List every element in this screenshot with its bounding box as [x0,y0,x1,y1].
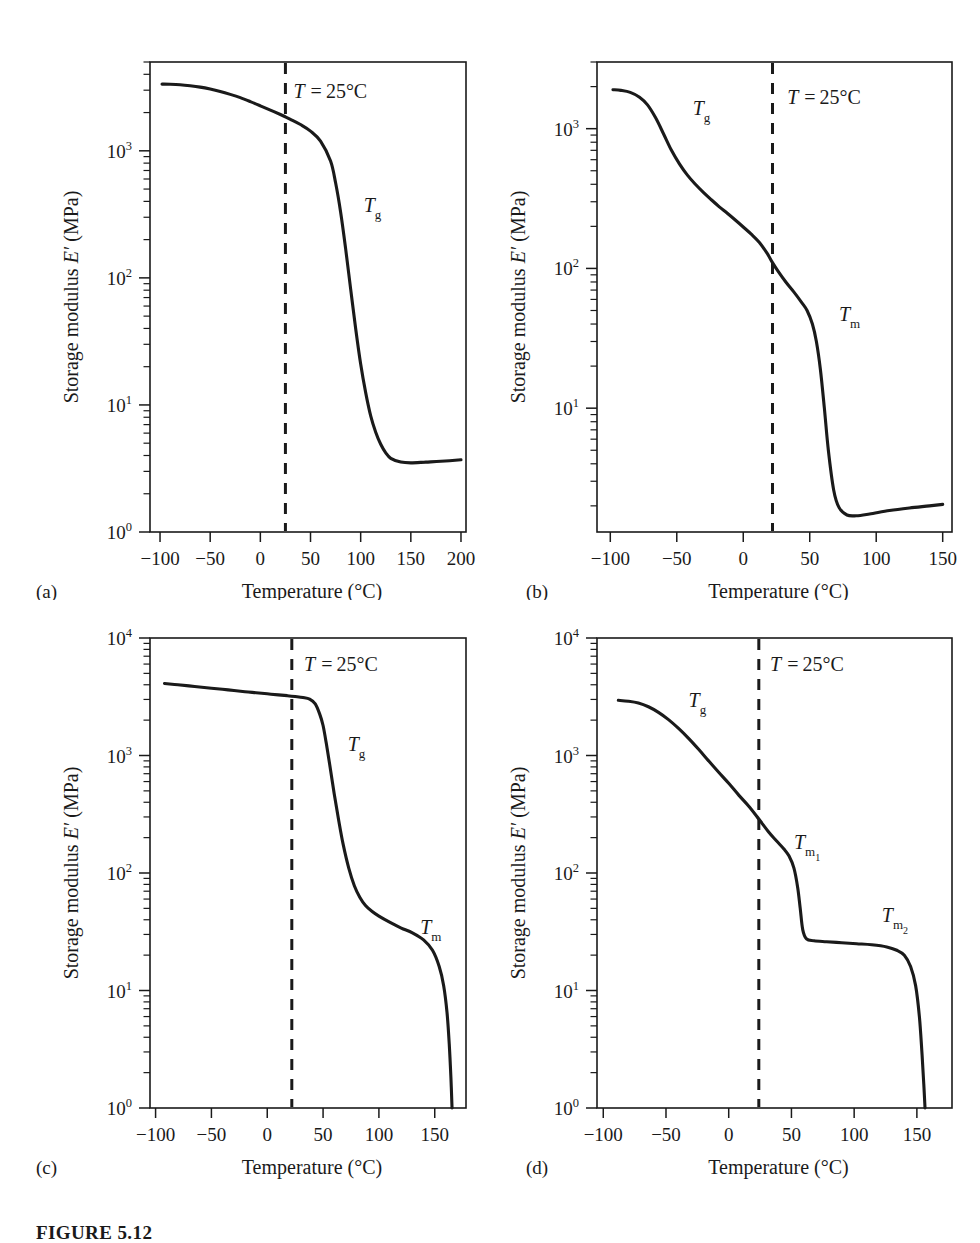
panel-letter: (a) [36,581,57,600]
panel-b: −100−50050100150101102103T = 25°CTgTmTem… [490,0,980,600]
x-tick-label: 150 [420,1124,449,1145]
x-axis-title: Temperature (°C) [242,1156,382,1179]
storage-modulus-curve [165,684,453,1109]
chart-c: −100−50050100150100101102103104T = 25°CT… [0,600,490,1200]
marker-label: T = 25°C [304,653,378,675]
figure-panel-grid: −100−50050100150200100101102103T = 25°CT… [0,0,980,1200]
figure-caption: FIGURE 5.12 [36,1222,152,1243]
transition-label: Tg [364,194,382,222]
x-tick-label: −100 [140,548,179,569]
y-tick-label: 104 [554,626,580,649]
x-tick-label: 50 [314,1124,333,1145]
y-axis-title: Storage modulus E′ (MPa) [60,767,83,980]
y-tick-label: 103 [554,117,579,140]
y-tick-label: 100 [107,520,132,543]
plot-frame [597,62,952,532]
x-tick-label: 150 [903,1124,932,1145]
x-axis-title: Temperature (°C) [708,580,848,600]
x-axis-title: Temperature (°C) [708,1156,848,1179]
y-tick-label: 103 [107,139,132,162]
x-tick-label: 150 [928,548,957,569]
x-tick-label: 200 [447,548,476,569]
transition-label: Tm [839,303,860,331]
x-tick-label: 100 [840,1124,869,1145]
storage-modulus-curve [162,84,461,463]
y-tick-label: 104 [107,626,133,649]
plot-frame [150,638,466,1108]
x-tick-label: 50 [800,548,819,569]
x-tick-label: 100 [365,1124,394,1145]
y-axis-title: Storage modulus E′ (MPa) [60,191,83,404]
y-tick-label: 101 [107,393,132,416]
transition-label: Tg [689,689,707,717]
y-tick-label: 101 [107,979,132,1002]
panel-c: −100−50050100150100101102103104T = 25°CT… [0,600,490,1200]
x-tick-label: −50 [651,1124,681,1145]
storage-modulus-curve [618,700,925,1108]
x-tick-label: 50 [782,1124,801,1145]
x-tick-label: −50 [662,548,692,569]
panel-a: −100−50050100150200100101102103T = 25°CT… [0,0,490,600]
y-axis-title: Storage modulus E′ (MPa) [507,767,530,980]
storage-modulus-curve [613,90,943,516]
x-tick-label: 50 [301,548,320,569]
transition-label: Tg [348,733,366,761]
y-tick-label: 102 [107,266,132,289]
y-tick-label: 100 [554,1096,579,1119]
y-tick-label: 102 [554,861,579,884]
x-tick-label: −100 [136,1124,175,1145]
chart-b: −100−50050100150101102103T = 25°CTgTmTem… [490,0,980,600]
x-tick-label: 100 [346,548,375,569]
transition-label: Tm1 [794,831,820,863]
y-tick-label: 102 [107,861,132,884]
x-tick-label: −100 [591,548,630,569]
x-tick-label: 0 [739,548,749,569]
x-tick-label: 0 [724,1124,734,1145]
x-tick-label: −50 [195,548,225,569]
panel-letter: (c) [36,1157,57,1179]
y-tick-label: 103 [554,744,579,767]
transition-label: Tm2 [882,904,908,936]
x-axis-title: Temperature (°C) [242,580,382,600]
y-tick-label: 103 [107,744,132,767]
x-tick-label: −100 [584,1124,623,1145]
panel-letter: (b) [526,581,548,600]
marker-label: T = 25°C [787,86,861,108]
x-tick-label: 0 [256,548,266,569]
x-tick-label: −50 [197,1124,227,1145]
x-tick-label: 150 [397,548,426,569]
y-axis-title: Storage modulus E′ (MPa) [507,191,530,404]
chart-a: −100−50050100150200100101102103T = 25°CT… [0,0,490,600]
x-tick-label: 100 [862,548,891,569]
y-tick-label: 101 [554,396,579,419]
x-tick-label: 0 [262,1124,272,1145]
chart-d: −100−50050100150100101102103104T = 25°CT… [490,600,980,1200]
y-tick-label: 101 [554,979,579,1002]
panel-letter: (d) [526,1157,548,1179]
y-tick-label: 100 [107,1096,132,1119]
y-tick-label: 102 [554,256,579,279]
marker-label: T = 25°C [293,80,367,102]
marker-label: T = 25°C [770,653,844,675]
transition-label: Tg [693,97,711,125]
panel-d: −100−50050100150100101102103104T = 25°CT… [490,600,980,1200]
